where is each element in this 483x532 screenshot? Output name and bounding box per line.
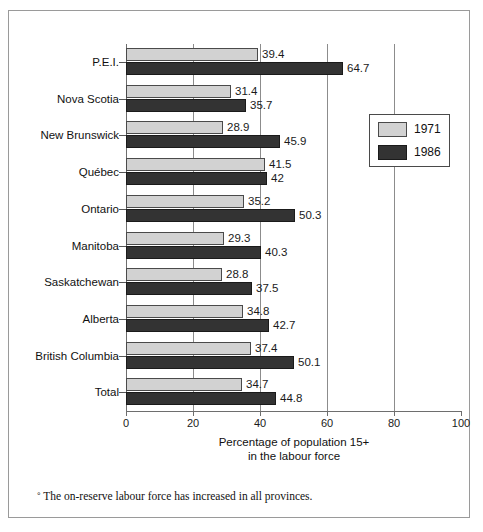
x-tick-60 [327, 411, 328, 416]
bar-1986-saskatchewan [126, 282, 252, 295]
bar-1986-manitoba [126, 246, 261, 259]
x-tick-40 [260, 411, 261, 416]
value-label-1986-p-e-i: 64.7 [347, 62, 369, 75]
bar-1986-british-columbia [126, 356, 294, 369]
x-axis-title-line1: Percentage of population 15+ [126, 435, 462, 449]
category-label-british-columbia: British Columbia [9, 350, 119, 363]
value-label-1971-qu-bec: 41.5 [269, 158, 291, 171]
legend-swatch-1971 [378, 122, 407, 137]
category-label-new-brunswick: New Brunswick [9, 129, 119, 142]
bar-1971-qu-bec [126, 158, 265, 171]
bar-1971-british-columbia [126, 342, 251, 355]
value-label-1986-british-columbia: 50.1 [298, 356, 320, 369]
value-label-1971-alberta: 34.8 [247, 305, 269, 318]
category-tick [119, 319, 126, 320]
bar-1971-manitoba [126, 232, 224, 245]
x-tick-0 [126, 411, 127, 416]
value-label-1986-qu-bec: 42 [271, 172, 284, 185]
value-label-1971-nova-scotia: 31.4 [235, 85, 257, 98]
gridline-60 [327, 44, 328, 411]
bar-1971-nova-scotia [126, 85, 231, 98]
x-axis-title-line2: in the labour force [126, 449, 462, 463]
bar-1986-p-e-i [126, 62, 343, 75]
x-tick-label-100: 100 [441, 417, 481, 430]
category-tick [119, 392, 126, 393]
bar-1971-ontario [126, 195, 244, 208]
legend-swatch-1986 [378, 145, 407, 160]
category-label-ontario: Ontario [9, 203, 119, 216]
x-axis-title: Percentage of population 15+ in the labo… [126, 435, 462, 463]
category-tick [119, 135, 126, 136]
value-label-1986-total: 44.8 [280, 392, 302, 405]
category-label-alberta: Alberta [9, 313, 119, 326]
bar-1971-alberta [126, 305, 243, 318]
bar-1971-p-e-i [126, 48, 258, 61]
category-label-qu-bec: Québec [9, 166, 119, 179]
category-tick [119, 246, 126, 247]
x-tick-80 [394, 411, 395, 416]
x-tick-label-0: 0 [106, 417, 146, 430]
category-label-manitoba: Manitoba [9, 240, 119, 253]
value-label-1986-manitoba: 40.3 [265, 246, 287, 259]
footnote-text: The on-reserve labour force has increase… [43, 490, 312, 502]
category-tick [119, 356, 126, 357]
x-tick-label-80: 80 [374, 417, 414, 430]
gridline-80 [394, 44, 395, 411]
x-tick-100 [461, 411, 462, 416]
value-label-1971-ontario: 35.2 [248, 195, 270, 208]
value-label-1971-british-columbia: 37.4 [255, 342, 277, 355]
category-label-total: Total [9, 386, 119, 399]
bar-1971-saskatchewan [126, 268, 222, 281]
category-tick [119, 209, 126, 210]
legend-label-1971: 1971 [414, 122, 441, 137]
footnote-marker: ° [37, 491, 41, 501]
category-tick [119, 99, 126, 100]
bar-1971-new-brunswick [126, 121, 223, 134]
footnote: ° The on-reserve labour force has increa… [37, 489, 312, 504]
bar-1986-alberta [126, 319, 269, 332]
value-label-1971-new-brunswick: 28.9 [227, 121, 249, 134]
bar-1971-total [126, 378, 242, 391]
value-label-1986-nova-scotia: 35.7 [250, 99, 272, 112]
x-axis-line [126, 411, 462, 412]
bar-1986-qu-bec [126, 172, 267, 185]
value-label-1986-alberta: 42.7 [273, 319, 295, 332]
category-tick [119, 172, 126, 173]
value-label-1986-new-brunswick: 45.9 [284, 135, 306, 148]
value-label-1971-p-e-i: 39.4 [262, 48, 284, 61]
bar-1986-ontario [126, 209, 295, 222]
value-label-1971-total: 34.7 [246, 378, 268, 391]
bar-1986-nova-scotia [126, 99, 246, 112]
x-tick-label-60: 60 [307, 417, 347, 430]
x-tick-label-40: 40 [240, 417, 280, 430]
category-tick [119, 282, 126, 283]
value-label-1986-ontario: 50.3 [299, 209, 321, 222]
bar-1986-new-brunswick [126, 135, 280, 148]
category-label-nova-scotia: Nova Scotia [9, 93, 119, 106]
category-tick [119, 62, 126, 63]
value-label-1971-manitoba: 29.3 [228, 232, 250, 245]
legend-label-1986: 1986 [414, 145, 441, 160]
x-tick-20 [193, 411, 194, 416]
bar-1986-total [126, 392, 276, 405]
chart-legend: 1971 1986 [369, 114, 450, 167]
value-label-1971-saskatchewan: 28.8 [226, 268, 248, 281]
category-label-saskatchewan: Saskatchewan [9, 276, 119, 289]
x-tick-label-20: 20 [173, 417, 213, 430]
category-label-p-e-i: P.E.I. [9, 56, 119, 69]
value-label-1986-saskatchewan: 37.5 [256, 282, 278, 295]
chart-frame: 020406080100P.E.I.39.464.7Nova Scotia31.… [8, 10, 470, 518]
